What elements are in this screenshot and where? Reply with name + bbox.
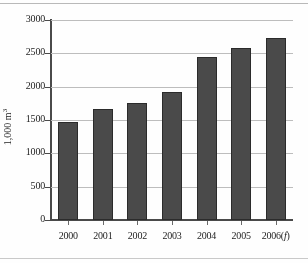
bar-2000 [58, 122, 78, 220]
gridline [51, 20, 293, 21]
gridline [51, 53, 293, 54]
y-axis-title-superscript: 3 [1, 109, 9, 113]
x-axis-tick [172, 221, 173, 225]
figure-top-rule [0, 3, 308, 4]
bar-2006f [266, 38, 286, 220]
y-axis-tick-label: 500 [0, 180, 45, 191]
y-axis-tick-label: 0 [0, 213, 45, 224]
x-axis-tick [276, 221, 277, 225]
x-axis-tick [103, 221, 104, 225]
bar-chart-figure: 1,000 m3 050010001500200025003000 200020… [0, 0, 308, 263]
y-axis-tick-label: 2000 [0, 80, 45, 91]
forecast-marker: f [284, 230, 287, 241]
x-axis-tick-label: 2006(f) [250, 230, 302, 241]
y-axis-tick-label: 1500 [0, 113, 45, 124]
plot-area [51, 20, 293, 220]
gridline [51, 87, 293, 88]
bar-2001 [93, 109, 113, 220]
y-axis-tick-label: 2500 [0, 46, 45, 57]
bar-2003 [162, 92, 182, 220]
y-axis-tick [45, 220, 51, 221]
x-axis-tick [68, 221, 69, 225]
figure-bottom-rule [0, 258, 308, 259]
bar-2005 [231, 48, 251, 220]
x-axis-tick [241, 221, 242, 225]
y-axis-tick-label: 1000 [0, 146, 45, 157]
y-axis-tick-label: 3000 [0, 13, 45, 24]
bar-2004 [197, 57, 217, 220]
x-axis-tick [137, 221, 138, 225]
bar-2002 [127, 103, 147, 220]
x-axis-tick [207, 221, 208, 225]
